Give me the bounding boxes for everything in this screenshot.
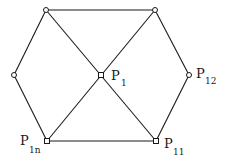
vertex-right-p12 (187, 73, 192, 78)
label-p11: P 11 (164, 136, 184, 157)
vertex-top-left (44, 8, 49, 13)
edge-top-right (155, 10, 189, 75)
vertex-left (12, 73, 17, 78)
vertex-center-p1 (99, 73, 104, 78)
vertex-top-right (153, 8, 158, 13)
label-p1-main: P (111, 68, 120, 83)
label-p12-main: P (196, 66, 205, 81)
label-p11-sub: 11 (173, 147, 184, 157)
hexagon-graph-diagram: P 1 P 12 P 1n P 11 (0, 0, 227, 167)
label-p1n: P 1n (20, 133, 41, 155)
label-p1n-sub: 1n (29, 145, 41, 155)
edge-bottom-left (14, 75, 47, 141)
label-p12: P 12 (196, 66, 216, 86)
label-p1-sub: 1 (121, 78, 127, 88)
label-p1n-main: P (20, 133, 29, 148)
vertex-bottom-right-p11 (154, 139, 159, 144)
vertex-bottom-left-p1n (45, 139, 50, 144)
label-p11-main: P (164, 136, 173, 151)
label-p12-sub: 12 (205, 76, 216, 86)
label-p1: P 1 (111, 68, 127, 88)
edge-bottom-right (156, 75, 189, 141)
edge-top-left (14, 10, 46, 75)
